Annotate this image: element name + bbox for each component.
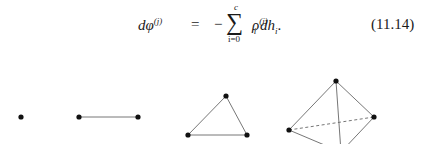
vertex-dot [18, 114, 23, 119]
vertex-dot [76, 114, 81, 119]
simplex-3 [286, 78, 376, 144]
vertex-dot [223, 93, 228, 98]
vertex-dot [333, 78, 338, 83]
edge [336, 81, 341, 144]
vertex-dot [286, 127, 291, 132]
simplex-0 [18, 114, 23, 119]
hidden-edge [289, 117, 374, 130]
vertex-dot [371, 114, 376, 119]
vertex-dot [185, 132, 190, 137]
vertex-dot [135, 114, 140, 119]
edge [289, 81, 336, 130]
edge [188, 96, 226, 135]
edge [289, 130, 341, 144]
vertex-dot [244, 132, 249, 137]
simplex-1 [76, 114, 140, 119]
edge [226, 96, 247, 135]
simplices-figure [0, 0, 430, 144]
edge [336, 81, 374, 117]
simplex-2 [185, 93, 249, 137]
